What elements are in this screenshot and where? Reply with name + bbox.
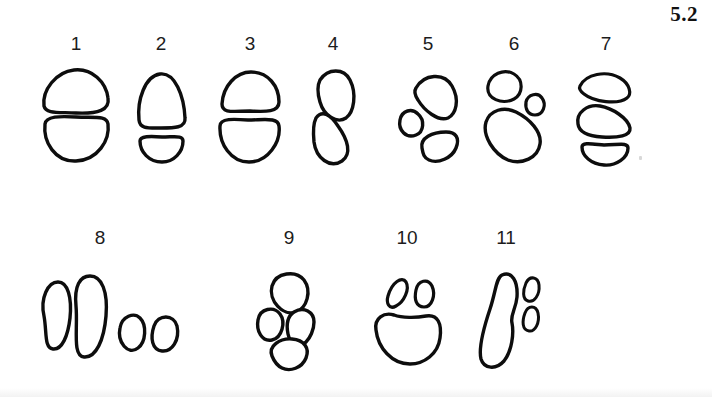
specimen-8-lobe-small-right	[152, 317, 178, 351]
specimen-3-lobe-lower	[220, 119, 279, 162]
specimen-8-lobe-left-oval	[43, 282, 71, 349]
specimen-11-lobe-toe-upper	[524, 278, 539, 301]
specimen-8-lobe-right-oval	[76, 276, 107, 357]
specimen-10: 10	[368, 228, 446, 368]
figure-canvas: 5.2 1 2 3 4	[0, 0, 712, 397]
specimen-9-drawing	[252, 268, 326, 368]
specimen-8-number: 8	[62, 228, 138, 247]
specimen-11-lobe-sole	[480, 274, 517, 367]
specimen-6-number: 6	[478, 34, 550, 53]
specimen-8-lobe-small-left	[119, 315, 144, 350]
specimen-4-number: 4	[302, 34, 364, 53]
specimen-2: 2	[128, 34, 194, 168]
specimen-10-lobe-toe-left	[387, 280, 407, 307]
specimen-10-lobe-toe-right	[415, 281, 433, 307]
specimen-9-lobe-bottom	[271, 339, 307, 370]
specimen-7-lobe-upper	[580, 74, 630, 102]
specimen-1: 1	[36, 34, 116, 168]
specimen-7-lobe-lower	[582, 144, 628, 165]
specimen-1-number: 1	[36, 34, 116, 53]
specimen-9-lobe-top	[271, 274, 308, 313]
specimen-3-drawing	[212, 62, 288, 168]
specimen-2-drawing	[128, 62, 194, 168]
specimen-8-drawing	[28, 268, 180, 368]
specimen-5: 5	[392, 34, 464, 168]
specimen-5-drawing	[392, 62, 464, 168]
specimen-11: 11	[470, 228, 542, 373]
specimen-5-lobe-upper-right	[415, 76, 457, 118]
specimen-5-number: 5	[392, 34, 464, 53]
specimen-10-number: 10	[368, 228, 446, 247]
specimen-3: 3	[212, 34, 288, 168]
specimen-5-lobe-left	[400, 111, 423, 136]
specimen-6: 6	[478, 34, 550, 168]
specimen-6-lobe-upper-right	[526, 95, 544, 115]
specimen-10-drawing	[368, 268, 446, 368]
specimen-7: 7	[572, 34, 640, 168]
specimen-9-lobe-middle-left	[258, 309, 283, 340]
specimen-2-lobe-upper	[139, 74, 185, 128]
specimen-3-number: 3	[212, 34, 288, 53]
specimen-6-drawing	[478, 62, 550, 168]
specimen-1-lobe-lower	[45, 117, 108, 161]
specimen-11-lobe-toe-lower	[523, 307, 538, 331]
specimen-8: 8	[28, 228, 180, 368]
specimen-6-lobe-upper-left	[488, 72, 521, 102]
specimen-4: 4	[302, 34, 364, 168]
paper-edge-shading	[0, 388, 712, 397]
specimen-1-drawing	[36, 62, 116, 168]
specimen-2-lobe-lower	[140, 136, 183, 162]
specimen-3-lobe-upper	[222, 72, 279, 111]
specimen-7-drawing	[572, 62, 640, 168]
specimen-9-number: 9	[252, 228, 326, 247]
specimen-4-drawing	[302, 62, 364, 168]
specimen-6-lobe-lower	[485, 109, 540, 161]
specimen-5-lobe-lower-right	[422, 132, 458, 161]
specimen-7-lobe-middle	[578, 106, 630, 138]
specimen-2-number: 2	[128, 34, 194, 53]
specimen-11-drawing	[470, 265, 542, 373]
specimen-11-number: 11	[470, 228, 542, 247]
specimen-1-lobe-upper	[44, 70, 108, 113]
specimen-10-lobe-pad	[376, 314, 441, 364]
specimen-7-number: 7	[572, 34, 640, 53]
figure-number-label: 5.2	[670, 2, 698, 27]
specimen-9: 9	[252, 228, 326, 368]
